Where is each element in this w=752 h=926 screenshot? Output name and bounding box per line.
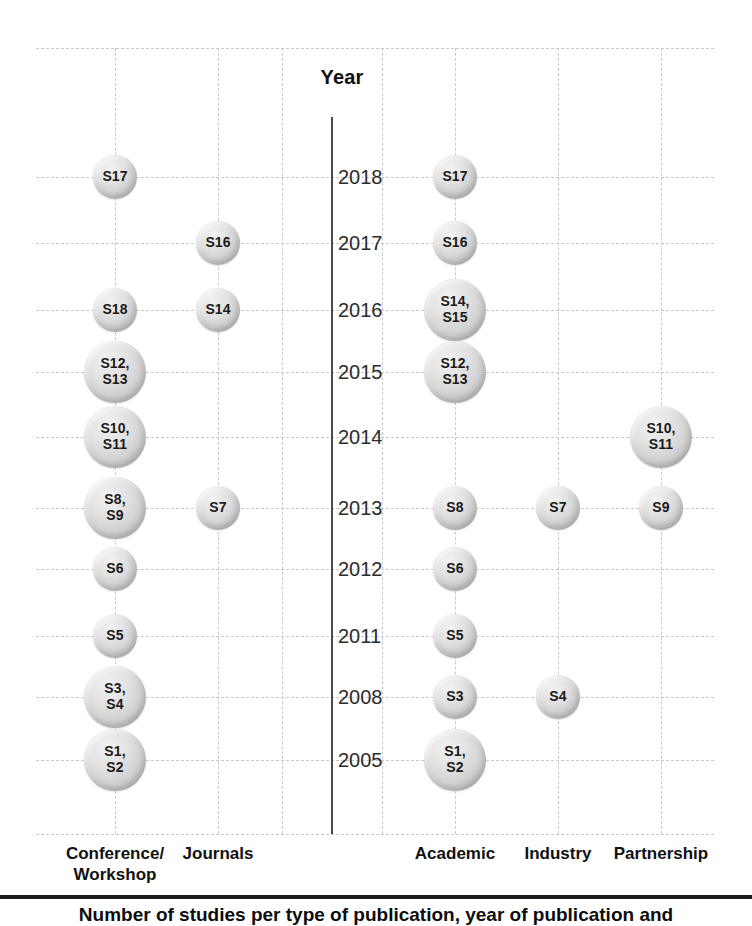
plot-area: Year 20182017201620152014201320122011200… xyxy=(0,0,752,926)
bubble-chart-figure: Year 20182017201620152014201320122011200… xyxy=(0,0,752,926)
bubble-s6-2012-conference-workshop: S6 xyxy=(93,547,137,591)
bubble-s7-2013-industry: S7 xyxy=(536,486,580,530)
column-label-journals: Journals xyxy=(143,843,293,864)
year-tick-2013: 2013 xyxy=(338,497,410,520)
bubble-s9-2013-partnership: S9 xyxy=(639,486,683,530)
bubble-s16-2017-academic: S16 xyxy=(433,221,477,265)
bubble-s16-2017-journals: S16 xyxy=(196,221,240,265)
year-tick-2012: 2012 xyxy=(338,558,410,581)
year-tick-2011: 2011 xyxy=(338,625,410,648)
bubble-s3-2008-academic: S3 xyxy=(433,675,477,719)
year-tick-2015: 2015 xyxy=(338,361,410,384)
column-label-partnership: Partnership xyxy=(586,843,736,864)
horizontal-gridline-11 xyxy=(36,834,714,835)
year-tick-2014: 2014 xyxy=(338,426,410,449)
bubble-s8-s9-2013-conference-workshop: S8, S9 xyxy=(84,477,146,539)
year-tick-2017: 2017 xyxy=(338,232,410,255)
caption-divider-rule xyxy=(0,895,752,899)
vertical-gridline-2 xyxy=(282,48,283,834)
year-tick-2018: 2018 xyxy=(338,166,410,189)
bubble-s8-2013-academic: S8 xyxy=(433,486,477,530)
bubble-s6-2012-academic: S6 xyxy=(433,547,477,591)
bubble-s12-s13-2015-academic: S12, S13 xyxy=(424,341,486,403)
bubble-s12-s13-2015-conference-workshop: S12, S13 xyxy=(84,341,146,403)
bubble-s3-s4-2008-conference-workshop: S3, S4 xyxy=(84,666,146,728)
figure-caption: Number of studies per type of publicatio… xyxy=(0,903,752,926)
bubble-s7-2013-journals: S7 xyxy=(196,486,240,530)
bubble-s14-s15-2016-academic: S14, S15 xyxy=(424,279,486,341)
year-axis-title: Year xyxy=(287,66,397,89)
bubble-s10-s11-2014-conference-workshop: S10, S11 xyxy=(84,406,146,468)
bubble-s1-s2-2005-academic: S1, S2 xyxy=(424,729,486,791)
bubble-s10-s11-2014-partnership: S10, S11 xyxy=(630,406,692,468)
bubble-s18-2016-conference-workshop: S18 xyxy=(93,288,137,332)
bubble-s14-2016-journals: S14 xyxy=(196,288,240,332)
bubble-s5-2011-conference-workshop: S5 xyxy=(93,614,137,658)
bubble-s5-2011-academic: S5 xyxy=(433,614,477,658)
horizontal-gridline-0 xyxy=(36,48,714,49)
bubble-s4-2008-industry: S4 xyxy=(536,675,580,719)
year-tick-2008: 2008 xyxy=(338,686,410,709)
bubble-s1-s2-2005-conference-workshop: S1, S2 xyxy=(84,729,146,791)
bubble-s17-2018-conference-workshop: S17 xyxy=(93,155,137,199)
year-axis-spine xyxy=(331,117,333,834)
year-tick-2005: 2005 xyxy=(338,749,410,772)
vertical-gridline-1 xyxy=(218,48,219,834)
year-tick-2016: 2016 xyxy=(338,299,410,322)
bubble-s17-2018-academic: S17 xyxy=(433,155,477,199)
